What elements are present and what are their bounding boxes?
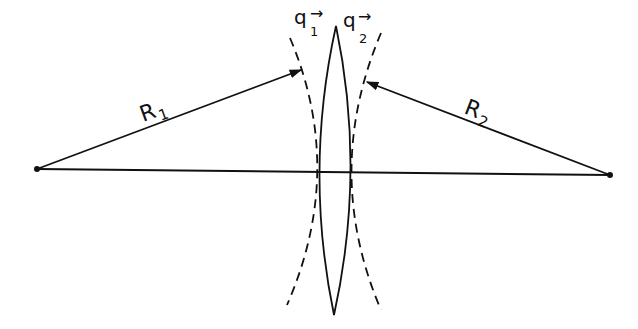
svg-text:2: 2 <box>359 31 367 46</box>
svg-text:q: q <box>343 8 356 32</box>
svg-text:R: R <box>136 98 159 127</box>
optical-axis <box>37 169 610 175</box>
q1-arrow-icon: → <box>310 4 323 23</box>
r2-arrow <box>367 82 610 175</box>
q2-label: q 2 → <box>343 7 371 46</box>
lens-diagram: R 1 R 2 q 1 → q 2 → <box>0 0 638 329</box>
svg-text:q: q <box>294 5 307 29</box>
svg-text:1: 1 <box>310 24 318 39</box>
q2-arrow-icon: → <box>358 7 371 26</box>
r2-label: R 2 <box>459 94 495 132</box>
biconvex-lens <box>319 26 350 315</box>
q1-label: q 1 → <box>294 4 323 39</box>
